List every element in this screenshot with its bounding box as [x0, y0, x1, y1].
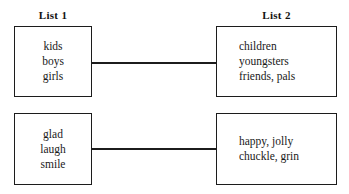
- column-header-list-1: List 1: [14, 9, 92, 21]
- connector-line-row-2: [91, 148, 217, 150]
- list-1-box-row-2-text: glad laugh smile: [15, 127, 91, 172]
- diagram-canvas: List 1 List 2 kids boys girls children y…: [0, 0, 349, 194]
- list-2-box-row-1: children youngsters friends, pals: [216, 26, 337, 97]
- column-header-list-2: List 2: [216, 9, 337, 21]
- list-2-box-row-1-text: children youngsters friends, pals: [217, 39, 336, 84]
- connector-line-row-1: [91, 62, 217, 64]
- list-2-box-row-2: happy, jolly chuckle, grin: [216, 113, 337, 185]
- list-2-box-row-2-text: happy, jolly chuckle, grin: [217, 134, 336, 164]
- list-1-box-row-1: kids boys girls: [14, 26, 92, 97]
- list-1-box-row-2: glad laugh smile: [14, 113, 92, 185]
- list-1-box-row-1-text: kids boys girls: [15, 39, 91, 84]
